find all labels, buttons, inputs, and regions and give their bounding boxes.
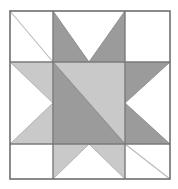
quilt-block-svg — [0, 0, 178, 189]
cell-bottom-left-square — [10, 144, 53, 179]
quilt-block-figure — [0, 0, 178, 189]
cell-top-right-square — [125, 11, 170, 62]
